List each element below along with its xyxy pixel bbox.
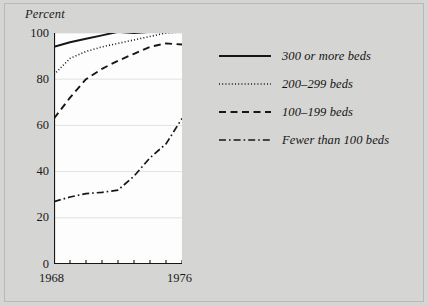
legend-label: Fewer than 100 beds <box>282 133 389 148</box>
y-tick-label: 80 <box>37 73 50 86</box>
x-tick-label: 1976 <box>167 272 192 285</box>
x-tick-label: 1968 <box>39 272 64 285</box>
legend-label: 100–199 beds <box>282 105 353 120</box>
series-line <box>54 43 182 118</box>
y-tick-label: 100 <box>30 27 49 40</box>
legend-item[interactable]: 100–199 beds <box>219 100 409 124</box>
y-tick-label: 60 <box>37 119 50 132</box>
plot-area <box>54 33 182 264</box>
dash-dot-line-swatch <box>219 134 271 146</box>
legend-item[interactable]: 300 or more beds <box>219 44 409 68</box>
x-axis-tick-labels: 19681976 <box>0 272 428 292</box>
legend-label: 300 or more beds <box>282 49 371 64</box>
dashed-line-swatch <box>219 106 271 118</box>
y-tick-label: 40 <box>37 165 50 178</box>
legend-item[interactable]: 200–299 beds <box>219 72 409 96</box>
series-line <box>54 118 182 201</box>
y-tick-label: 0 <box>43 258 49 271</box>
plot-svg <box>54 33 182 264</box>
solid-line-swatch <box>219 50 271 62</box>
y-tick-label: 20 <box>37 211 50 224</box>
chart-legend: 300 or more beds200–299 beds100–199 beds… <box>219 44 409 156</box>
chart-figure: Percent 020406080100 19681976 300 or mor… <box>0 0 428 306</box>
series-line <box>54 33 182 47</box>
legend-item[interactable]: Fewer than 100 beds <box>219 128 409 152</box>
series-line <box>54 33 182 75</box>
legend-label: 200–299 beds <box>282 77 353 92</box>
dotted-line-swatch <box>219 78 271 90</box>
y-axis-tick-labels: 020406080100 <box>14 0 49 306</box>
